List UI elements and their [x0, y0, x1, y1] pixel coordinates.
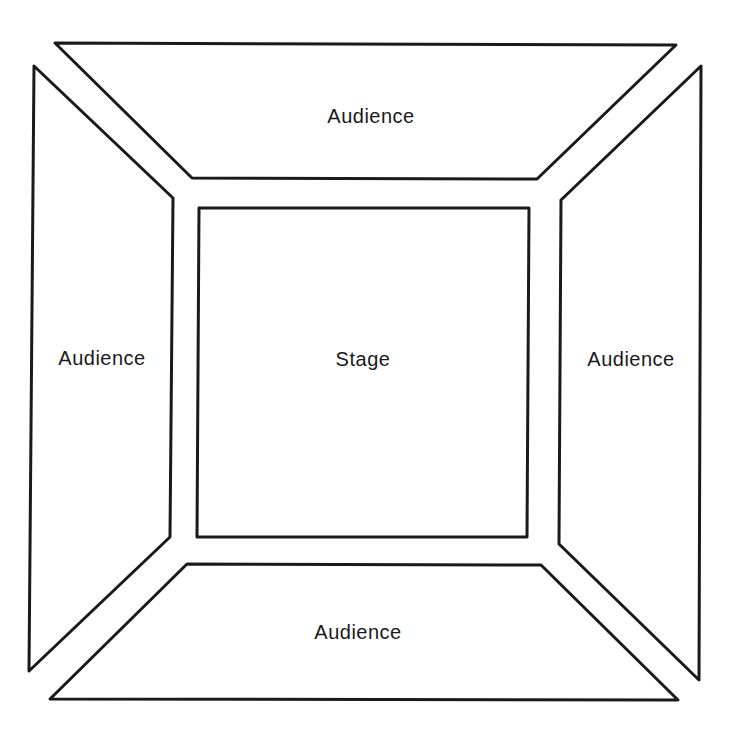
audience-bottom-section: Audience	[50, 564, 678, 700]
theatre-floor-plan: Audience Audience Stage Audience Audienc…	[0, 0, 739, 731]
audience-right-outline	[559, 66, 701, 680]
audience-bottom-label: Audience	[314, 621, 401, 643]
audience-left-section: Audience	[29, 66, 173, 671]
audience-right-section: Audience	[559, 66, 701, 680]
stage-outline	[197, 208, 529, 537]
audience-left-label: Audience	[58, 347, 145, 369]
stage-label: Stage	[336, 348, 391, 370]
audience-top-label: Audience	[327, 105, 414, 127]
stage-section: Stage	[197, 208, 529, 537]
audience-top-section: Audience	[55, 43, 676, 179]
audience-right-label: Audience	[587, 348, 674, 370]
